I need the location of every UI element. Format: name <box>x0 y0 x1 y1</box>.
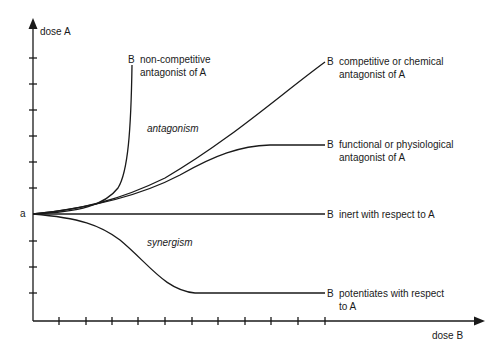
label-inert: Binert with respect to A <box>327 208 435 221</box>
curve-competitive <box>33 62 325 214</box>
label-potentiates: Bpotentiates with respect to A <box>327 287 444 313</box>
curve-marker: B <box>327 287 339 300</box>
antagonism-label: antagonism <box>147 122 199 135</box>
curve-marker: B <box>327 138 339 151</box>
curve-marker: B <box>327 55 339 68</box>
curve-marker: B <box>128 53 140 66</box>
x-axis-label: dose B <box>432 329 463 342</box>
synergism-label: synergism <box>147 236 193 249</box>
y-axis-label: dose A <box>40 25 71 38</box>
y-axis-arrow-icon <box>29 18 38 29</box>
label-functional: Bfunctional or physiological antagonist … <box>327 138 454 164</box>
label-non-competitive: Bnon-competitive antagonist of A <box>128 53 211 79</box>
curve-potentiates <box>33 214 325 293</box>
label-competitive: Bcompetitive or chemical antagonist of A <box>327 55 443 81</box>
curve-functional <box>33 145 325 214</box>
curve-non-competitive <box>33 65 132 214</box>
point-a-label: a <box>20 207 26 220</box>
x-axis-arrow-icon <box>474 317 485 326</box>
curve-marker: B <box>327 208 339 221</box>
